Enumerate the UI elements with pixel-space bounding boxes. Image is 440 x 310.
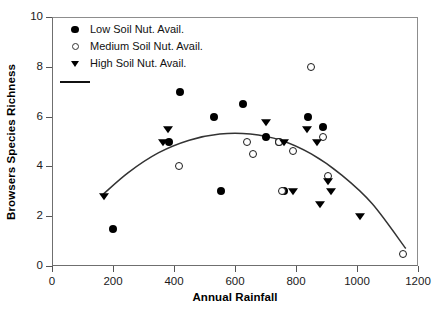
- point-medium-soil: [249, 150, 257, 158]
- point-high-soil: [323, 179, 333, 186]
- legend-symbol: [60, 43, 90, 50]
- point-medium-soil: [278, 187, 286, 195]
- x-axis-tick: [174, 266, 175, 272]
- legend-triangle-icon: [71, 61, 79, 67]
- point-high-soil: [302, 126, 312, 133]
- point-low-soil: [319, 123, 327, 131]
- point-high-soil: [261, 119, 271, 126]
- x-axis-tick-label: 0: [49, 276, 55, 288]
- point-medium-soil: [175, 162, 183, 170]
- point-low-soil: [109, 225, 117, 233]
- x-axis-tick-label: 1000: [344, 276, 370, 288]
- legend-item: Medium Soil Nut. Avail.: [60, 39, 203, 54]
- point-medium-soil: [289, 147, 297, 155]
- legend-filled-circle-icon: [71, 26, 79, 34]
- legend-symbol: [60, 81, 90, 83]
- point-low-soil: [210, 113, 218, 121]
- x-axis-tick: [113, 266, 114, 272]
- y-axis-tick-label: 4: [37, 161, 43, 173]
- legend-symbol: [60, 26, 90, 34]
- point-high-soil: [315, 201, 325, 208]
- point-high-soil: [355, 213, 365, 220]
- point-low-soil: [239, 100, 247, 108]
- y-axis-title-label: Browsers Species Richness: [5, 64, 17, 220]
- point-high-soil: [158, 139, 168, 146]
- legend: Low Soil Nut. Avail.Medium Soil Nut. Ava…: [60, 22, 203, 91]
- y-axis-tick-label: 2: [37, 210, 43, 222]
- x-axis-tick-label: 1200: [405, 276, 431, 288]
- legend-item-label: Low Soil Nut. Avail.: [90, 24, 184, 35]
- point-high-soil: [312, 139, 322, 146]
- x-axis-tick: [235, 266, 236, 272]
- x-axis-tick-label: 800: [286, 276, 305, 288]
- x-axis-tick-label: 200: [103, 276, 122, 288]
- legend-item: Low Soil Nut. Avail.: [60, 22, 203, 37]
- point-medium-soil: [307, 63, 315, 71]
- x-axis-tick-label: 400: [164, 276, 183, 288]
- point-low-soil: [217, 187, 225, 195]
- point-high-soil: [326, 188, 336, 195]
- legend-item: High Soil Nut. Avail.: [60, 56, 203, 71]
- y-axis-tick-label: 6: [37, 111, 43, 123]
- y-axis-title: Browsers Species Richness: [3, 17, 19, 266]
- scatter-plot-figure: Browsers Species Richness 0246810 020040…: [0, 0, 440, 310]
- y-axis-tick-label: 8: [37, 61, 43, 73]
- legend-item-label: Medium Soil Nut. Avail.: [90, 41, 203, 52]
- legend-symbol: [60, 61, 90, 67]
- y-axis-tick-label: 0: [37, 260, 43, 272]
- y-axis-tick-label: 10: [30, 11, 43, 23]
- x-axis-tick-label: 600: [225, 276, 244, 288]
- point-medium-soil: [243, 138, 251, 146]
- point-medium-soil: [399, 250, 407, 258]
- point-high-soil: [288, 188, 298, 195]
- x-axis-tick: [296, 266, 297, 272]
- legend-item-label: High Soil Nut. Avail.: [90, 58, 186, 69]
- x-axis-tick: [357, 266, 358, 272]
- x-axis-tick: [52, 266, 53, 272]
- x-axis-tick: [418, 266, 419, 272]
- point-low-soil: [304, 113, 312, 121]
- legend-open-circle-icon: [72, 43, 79, 50]
- legend-fit-line-icon: [60, 81, 90, 83]
- legend-item: [60, 74, 203, 89]
- point-high-soil: [279, 139, 289, 146]
- point-high-soil: [163, 126, 173, 133]
- x-axis-title: Annual Rainfall: [52, 291, 418, 303]
- point-low-soil: [262, 133, 270, 141]
- point-high-soil: [99, 193, 109, 200]
- x-axis-title-label: Annual Rainfall: [192, 291, 277, 303]
